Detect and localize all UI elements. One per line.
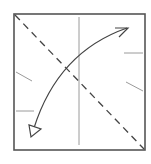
origami-diagram: [0, 0, 151, 164]
